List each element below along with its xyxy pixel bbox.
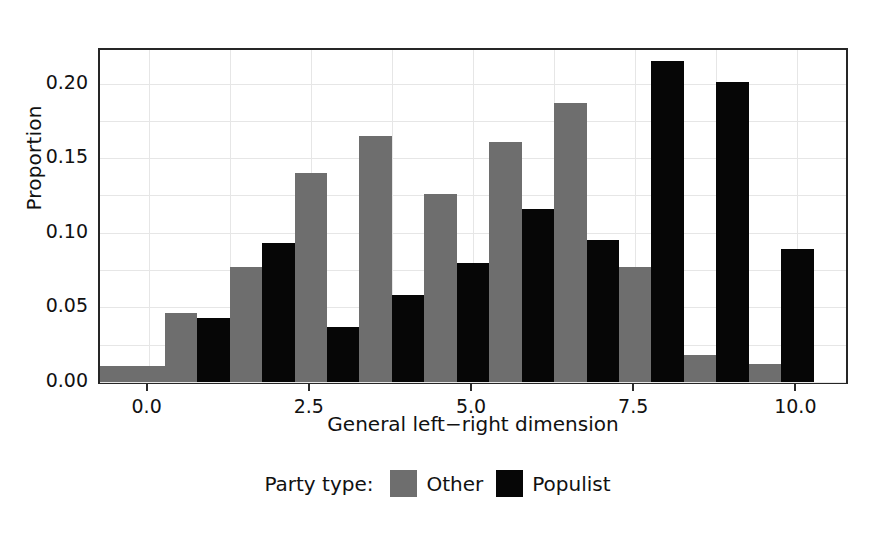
x-tick-mark [632, 384, 634, 391]
legend-item-other[interactable]: Other [390, 470, 483, 497]
y-tick-label: 0.20 [26, 71, 88, 93]
y-tick-label: 0.05 [26, 294, 88, 316]
bar-other [554, 103, 586, 382]
bar-other [749, 364, 781, 382]
y-tick-label: 0.10 [26, 220, 88, 242]
legend-swatch-other-icon [390, 470, 417, 497]
bar-populist [522, 209, 554, 382]
bar-populist [716, 82, 748, 382]
legend-title: Party type: [264, 472, 373, 496]
bar-populist [327, 327, 359, 382]
bar-other [165, 313, 197, 382]
bar-chart-figure: Proportion 0.000.050.100.150.20 0.02.55.… [0, 0, 875, 536]
x-tick-mark [146, 384, 148, 391]
x-axis-title: General left−right dimension [98, 412, 848, 436]
y-axis-tick-labels: 0.000.050.100.150.20 [26, 0, 88, 536]
bar-populist [781, 249, 813, 382]
plot-panel [98, 48, 848, 384]
legend-swatch-populist-icon [496, 470, 523, 497]
x-tick-mark [470, 384, 472, 391]
bar-populist [197, 318, 229, 382]
bar-other [100, 366, 165, 382]
bar-populist [392, 295, 424, 382]
bar-populist [587, 240, 619, 382]
chart-legend: Party type: Other Populist [0, 470, 875, 497]
y-tick-label: 0.15 [26, 145, 88, 167]
gridline-horizontal [100, 382, 846, 383]
bar-other [295, 173, 327, 382]
bar-other [359, 136, 391, 382]
y-tick-label: 0.00 [26, 369, 88, 391]
bar-other [489, 142, 521, 382]
legend-label-populist: Populist [532, 472, 610, 496]
bar-other [230, 267, 262, 382]
bar-populist [457, 263, 489, 382]
bar-populist [262, 243, 294, 382]
bar-other [619, 267, 651, 382]
legend-label-other: Other [426, 472, 483, 496]
legend-item-populist[interactable]: Populist [496, 470, 610, 497]
x-tick-mark [794, 384, 796, 391]
bar-populist [651, 61, 683, 382]
x-tick-mark [308, 384, 310, 391]
bar-other [684, 355, 716, 382]
gridline-vertical [149, 50, 150, 382]
bar-other [424, 194, 456, 382]
